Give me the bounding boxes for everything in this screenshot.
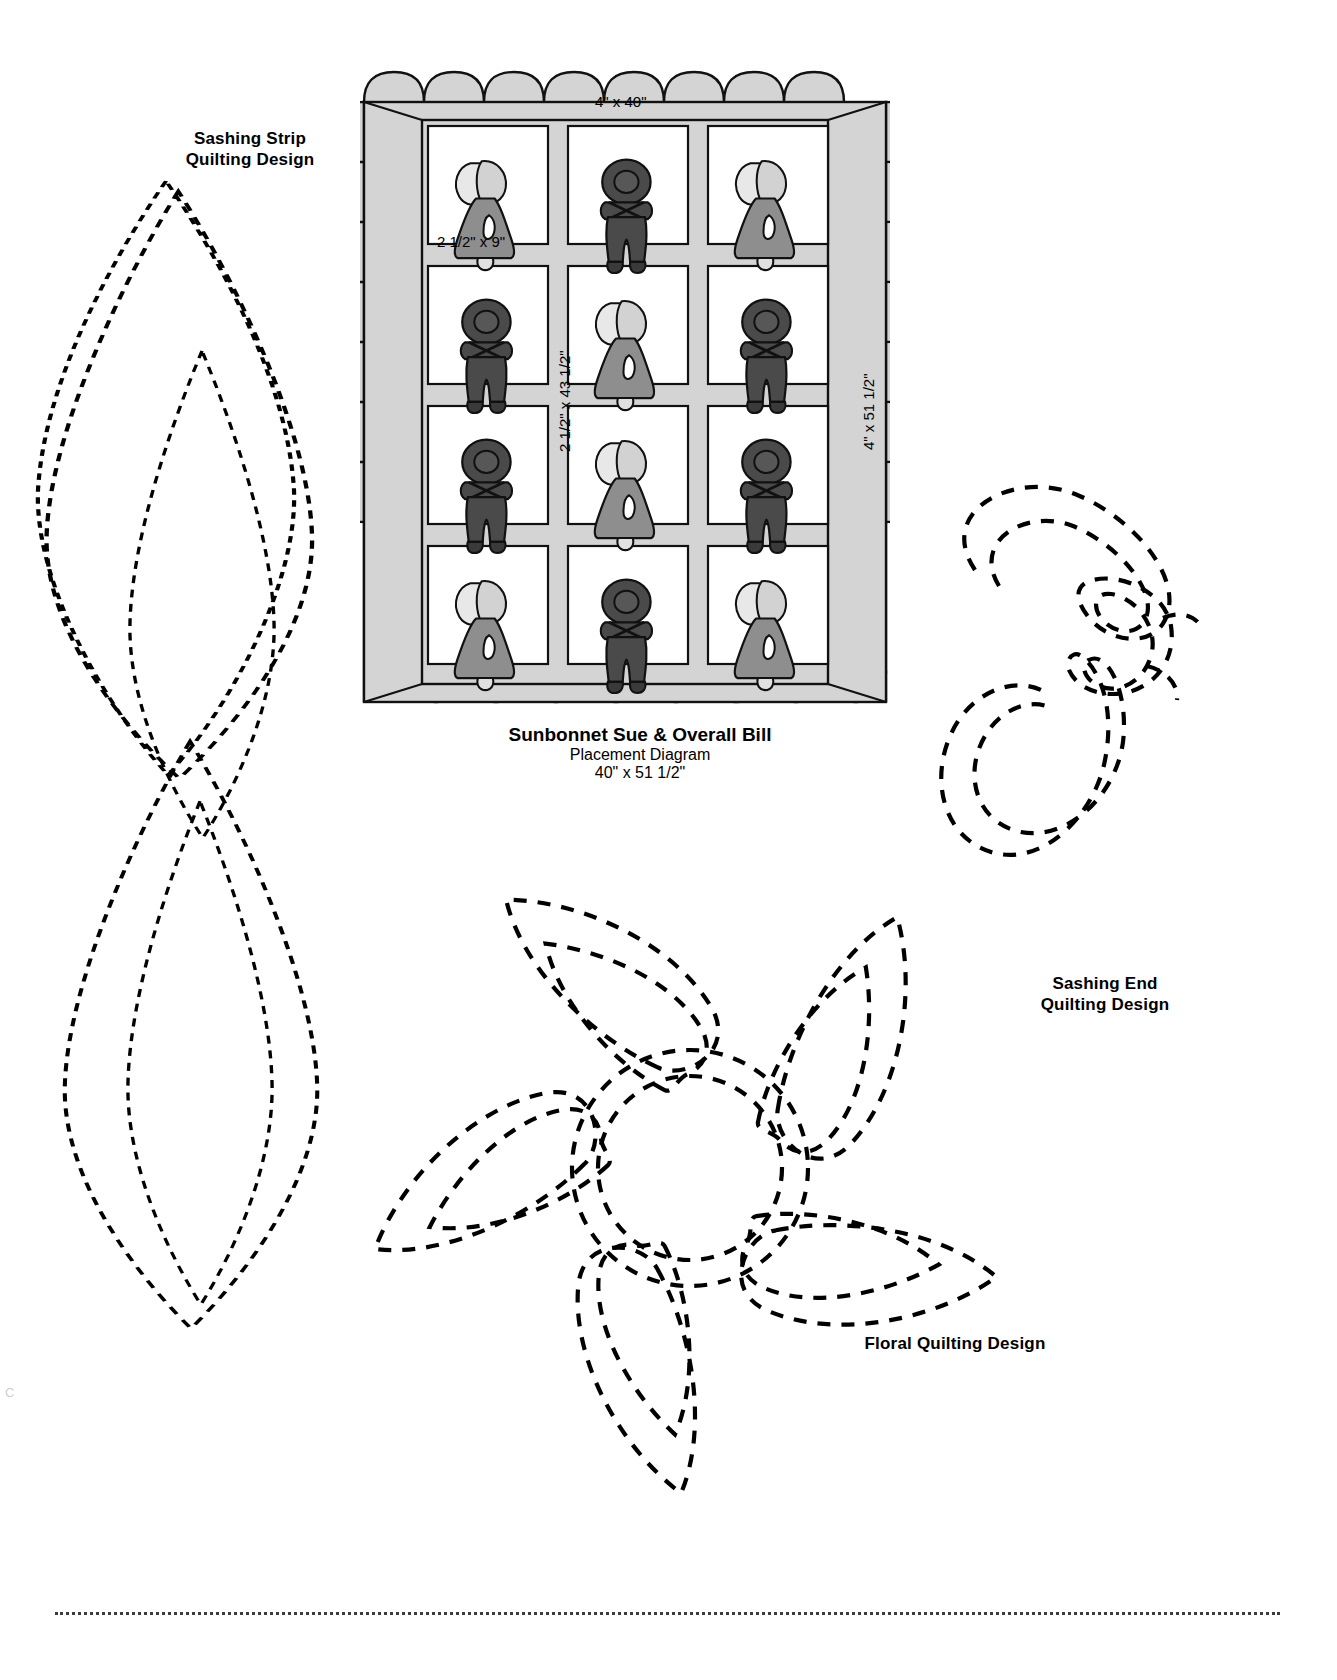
quilt-caption-title: Sunbonnet Sue & Overall Bill: [425, 723, 855, 746]
floral-design-label: Floral Quilting Design: [790, 1333, 1120, 1354]
pattern-sheet: Sashing Strip Quilting Design: [0, 0, 1337, 1680]
sashing-strip-quilting-design: [40, 170, 360, 1410]
dimension-top-border: 4" x 40": [595, 93, 647, 110]
quilt-caption-size: 40" x 51 1/2": [425, 763, 855, 782]
dimension-block-sashing: 2 1/2" x 9": [437, 233, 505, 250]
page-artifact: C: [5, 1385, 14, 1400]
floral-quilting-design: [340, 800, 1040, 1540]
footer-divider: [55, 1612, 1280, 1618]
dimension-vertical-sashing: 2 1/2" x 43 1/2": [556, 350, 573, 452]
sashing-strip-design-label: Sashing Strip Quilting Design: [105, 128, 395, 170]
dimension-side-border: 4" x 51 1/2": [860, 373, 877, 450]
quilt-caption-subtitle: Placement Diagram: [425, 745, 855, 764]
quilt-placement-diagram: [360, 62, 890, 712]
